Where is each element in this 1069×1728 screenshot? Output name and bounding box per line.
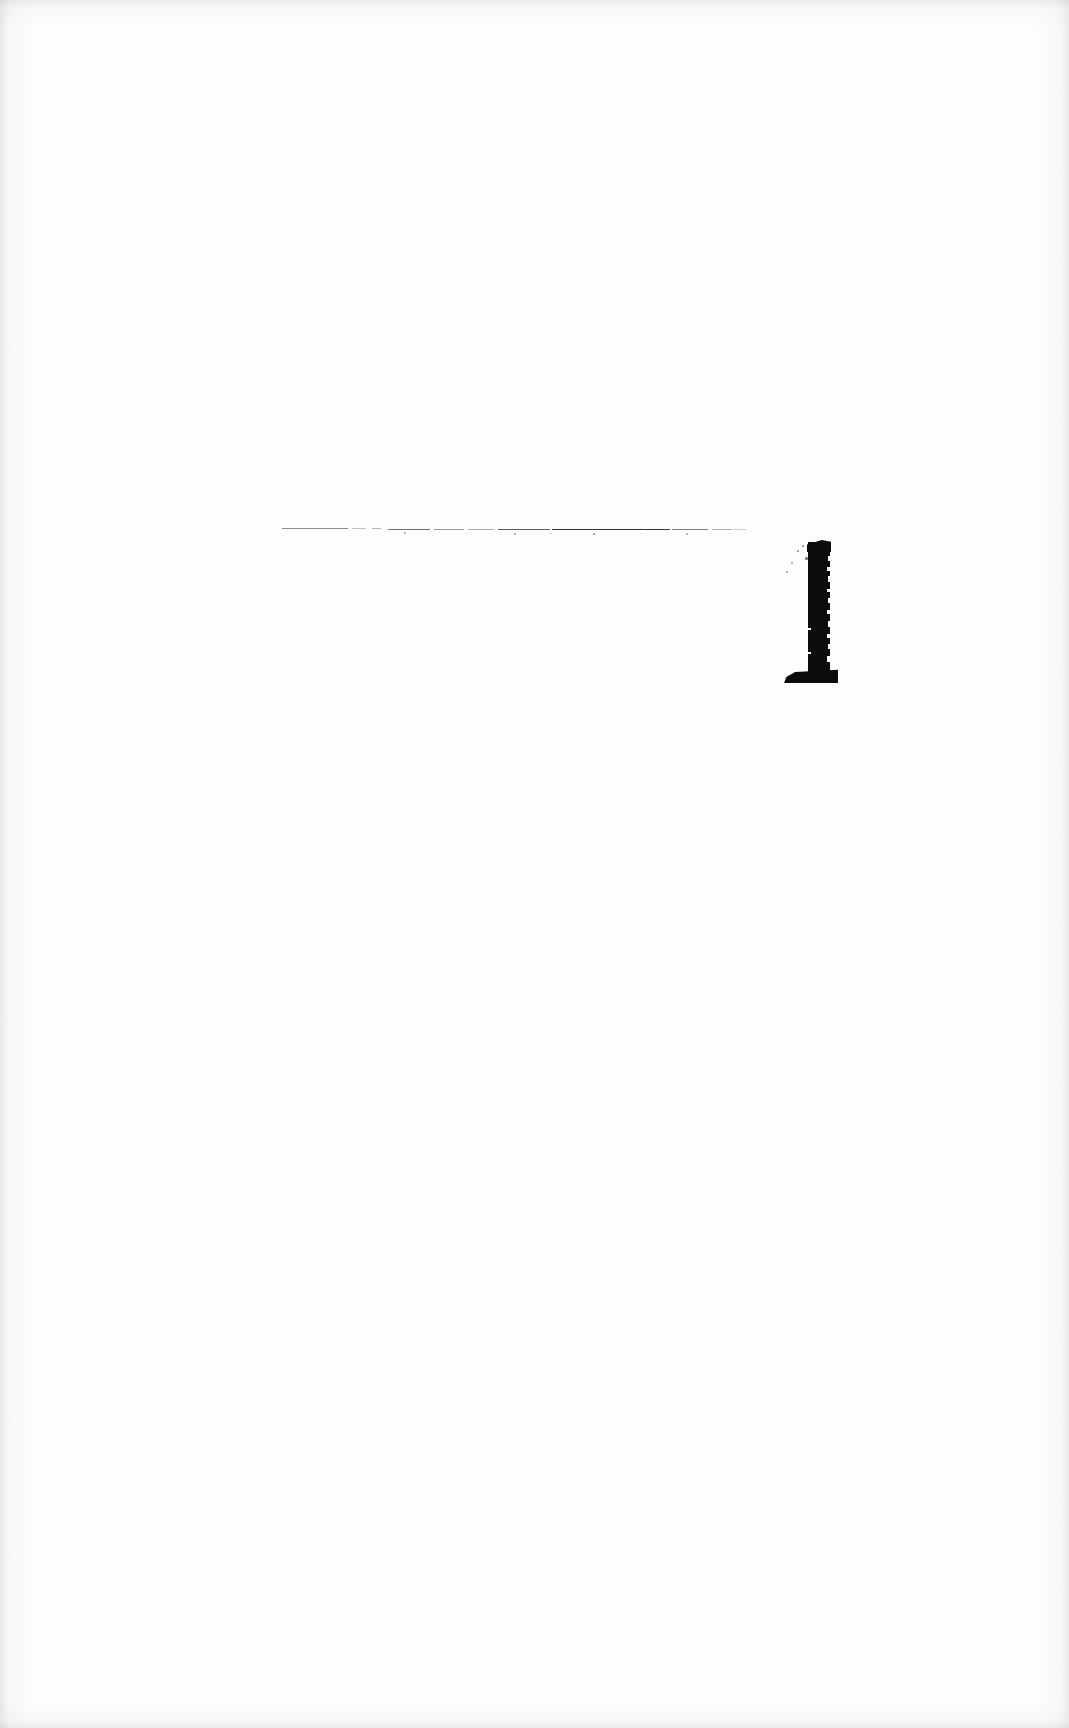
rule-speck [686, 533, 688, 535]
rule-speck [404, 532, 406, 534]
glyph-ink-fleck [813, 542, 815, 544]
rule-segment [352, 528, 366, 529]
rule-segment [468, 529, 494, 530]
rule-speck [514, 533, 516, 535]
glyph-ink-fleck [786, 571, 788, 573]
glyph-notch [827, 589, 831, 592]
glyph-notch [828, 598, 831, 603]
glyph-notch [827, 610, 831, 614]
paper-background [0, 0, 1069, 1728]
rule-segment [712, 529, 732, 530]
rule-segment [434, 529, 464, 530]
glyph-ink-fleck [805, 557, 808, 560]
rule-speck [550, 533, 552, 535]
rule-speck [466, 533, 467, 534]
rule-speck [729, 533, 730, 534]
numeral-one-glyph [783, 540, 841, 686]
glyph-notch [808, 652, 811, 654]
rule-segment [552, 529, 670, 530]
glyph-notch [827, 634, 831, 638]
rule-segment [672, 529, 708, 530]
glyph-notch [828, 576, 831, 582]
scanned-page [0, 0, 1069, 1728]
rule-speck [640, 533, 641, 534]
rule-speck [593, 533, 595, 535]
rule-segment [282, 528, 348, 529]
glyph-ink-fleck [797, 550, 799, 552]
rule-segment [372, 528, 381, 529]
glyph-notch [808, 628, 811, 630]
glyph-notch [827, 656, 831, 662]
glyph-notch [827, 567, 831, 571]
glyph-notch [828, 644, 831, 649]
glyph-notch [828, 621, 831, 627]
glyph-ink-fleck [802, 545, 804, 547]
rule-segment [388, 529, 430, 530]
rule-segment [498, 529, 550, 530]
glyph-notch [828, 556, 831, 561]
horizontal-rule [282, 524, 746, 536]
rule-segment [734, 529, 746, 530]
glyph-ink-fleck [791, 562, 793, 564]
